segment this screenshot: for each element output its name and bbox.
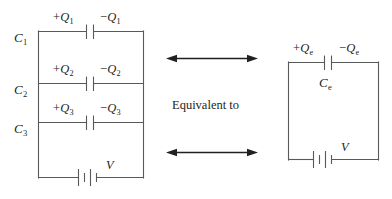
left-capacitor-plates bbox=[87, 25, 94, 131]
bottom-arrow-head-left bbox=[166, 149, 177, 156]
capacitor-equivalence-figure: C1 +Q1 −Q1 C2 +Q2 −Q2 C3 +Q3 −Q3 V Equiv… bbox=[0, 0, 392, 199]
charge-positive-2-label: +Q2 bbox=[53, 63, 74, 76]
charge-negative-1-label: −Q1 bbox=[100, 11, 121, 24]
bottom-equivalence-arrow bbox=[166, 149, 258, 156]
charge-negative-3-label: −Q3 bbox=[100, 102, 121, 115]
top-equivalence-arrow bbox=[166, 55, 258, 62]
equivalent-charge-negative-label: −Qe bbox=[339, 42, 359, 55]
right-battery-voltage-label: V bbox=[341, 141, 349, 154]
right-capacitor-plates bbox=[325, 56, 332, 71]
bottom-arrow-head-right bbox=[247, 149, 258, 156]
capacitor-1-label: C1 bbox=[14, 31, 27, 44]
left-battery-symbol bbox=[79, 169, 97, 186]
charge-positive-3-label: +Q3 bbox=[53, 102, 74, 115]
top-arrow-head-right bbox=[247, 55, 258, 62]
charge-negative-2-label: −Q2 bbox=[100, 63, 121, 76]
left-battery-voltage-label: V bbox=[106, 159, 114, 172]
capacitor-2-label: C2 bbox=[14, 83, 27, 96]
capacitor-3-label: C3 bbox=[14, 122, 27, 135]
equivalent-to-text: Equivalent to bbox=[172, 99, 239, 112]
equivalent-charge-positive-label: +Qe bbox=[293, 42, 313, 55]
right-circuit-wires bbox=[289, 62, 379, 160]
equivalent-capacitor-label: Ce bbox=[319, 76, 332, 89]
charge-positive-1-label: +Q1 bbox=[53, 11, 74, 24]
right-battery-symbol bbox=[314, 151, 332, 168]
top-arrow-head-left bbox=[166, 55, 177, 62]
